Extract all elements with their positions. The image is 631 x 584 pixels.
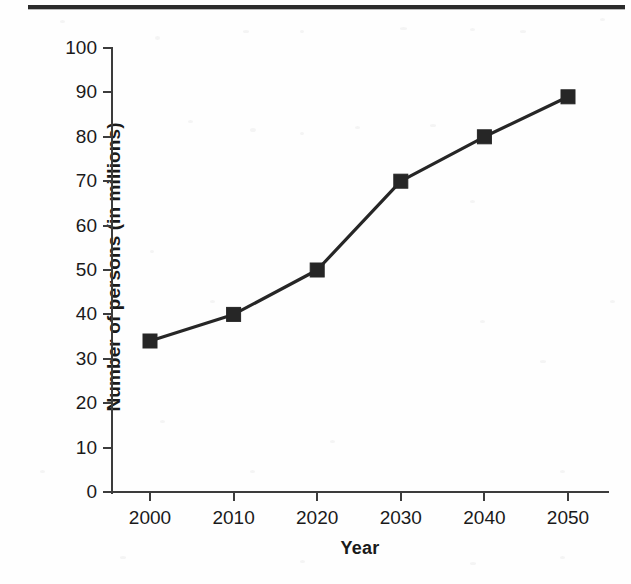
series-data-point — [561, 90, 575, 104]
series-marker-group — [143, 90, 575, 348]
series-data-point — [310, 263, 324, 277]
series-plot-area — [0, 0, 631, 584]
line-chart-figure: Number of persons (in millions) 01020304… — [0, 0, 631, 584]
series-data-point — [143, 334, 157, 348]
series-data-point — [394, 174, 408, 188]
series-data-point — [227, 307, 241, 321]
series-data-point — [477, 130, 491, 144]
x-axis-title: Year — [112, 538, 608, 559]
series-line-number-of-persons — [150, 97, 568, 341]
